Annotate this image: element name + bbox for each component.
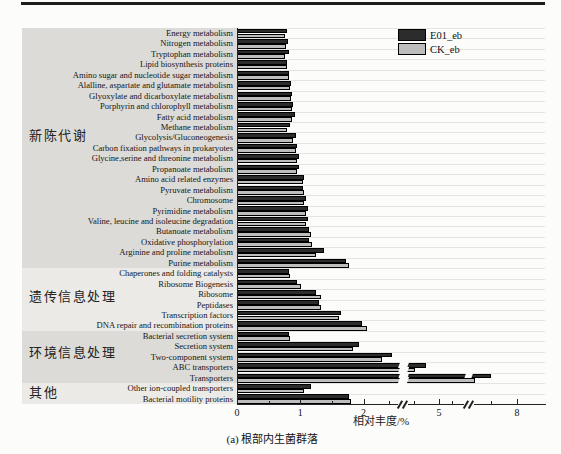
category-label: Amino sugar and nucleotide sugar metabol… xyxy=(22,70,233,80)
x-axis-minor-tick xyxy=(269,401,270,404)
bar-CK_eb xyxy=(237,44,286,49)
bar-CK_eb xyxy=(237,389,304,394)
category-label: Purine metabolism xyxy=(22,258,233,268)
category-label: Bacterial secretion system xyxy=(22,331,233,341)
bar-CK_eb xyxy=(237,117,292,122)
legend-swatch-ck xyxy=(398,43,426,55)
bar-CK_eb xyxy=(237,128,287,133)
category-label: Fatty acid metabolism xyxy=(22,112,233,122)
legend: E01_eb CK_eb xyxy=(398,28,462,56)
bar-CK_eb xyxy=(237,96,291,101)
bar-CK_eb xyxy=(237,65,287,70)
bar-CK_eb xyxy=(237,399,351,404)
legend-label-e01: E01_eb xyxy=(426,30,462,41)
category-label: Lipid biosynthesis proteins xyxy=(22,59,233,69)
x-axis-minor-tick xyxy=(452,401,453,404)
y-axis-line xyxy=(237,28,238,404)
x-axis-major-tick xyxy=(364,399,365,404)
bar-CK_eb xyxy=(237,169,297,174)
category-label: DNA repair and recombination proteins xyxy=(22,320,233,330)
bar-CK_eb xyxy=(237,263,349,268)
category-group-label: 环境信息处理 xyxy=(29,342,116,361)
category-label: Glyoxylate and dicarboxylate metabolism xyxy=(22,91,233,101)
category-label: Valine, leucine and isoleucine degradati… xyxy=(22,216,233,226)
bar-CK_eb xyxy=(237,316,339,321)
x-axis-minor-tick xyxy=(389,401,390,404)
category-label: Tryptophan metabolism xyxy=(22,49,233,59)
category-group-label: 遗传信息处理 xyxy=(29,286,116,305)
bar-CK_eb xyxy=(237,159,297,164)
bar-CK_eb xyxy=(237,180,303,185)
bar-CK_eb xyxy=(237,86,290,91)
bar-CK_eb xyxy=(237,54,285,59)
category-label: Arginine and proline metabolism xyxy=(22,247,233,257)
category-label: Propanoate metabolism xyxy=(22,164,233,174)
category-label: Oxidative phosphorylation xyxy=(22,237,233,247)
bar-CK_eb xyxy=(237,148,296,153)
category-label: Pyruvate metabolism xyxy=(22,185,233,195)
bar-CK_eb xyxy=(237,274,290,279)
x-axis-major-tick xyxy=(300,399,301,404)
legend-item-ck: CK_eb xyxy=(398,42,462,56)
x-axis-title: 相对丰度/% xyxy=(227,412,535,428)
x-axis-line xyxy=(237,404,546,405)
category-label: Alalline, aspartate and glutamate metabo… xyxy=(22,80,233,90)
category-label: Porphyrin and chlorophyll metabolism xyxy=(22,101,233,111)
bar-CK_eb xyxy=(237,378,475,383)
category-label: Pyrimidine metabolism xyxy=(22,206,233,216)
x-axis-major-tick xyxy=(237,399,238,404)
bar-CK_eb xyxy=(237,347,353,352)
legend-swatch-e01 xyxy=(398,29,426,41)
category-label: Butanoate metabolism xyxy=(22,226,233,236)
x-axis-major-tick xyxy=(439,399,440,404)
bar-CK_eb xyxy=(237,368,415,373)
category-label: Chaperones and folding catalysts xyxy=(22,268,233,278)
bar-CK_eb xyxy=(237,242,312,247)
x-axis-minor-tick xyxy=(491,401,492,404)
category-label: Nitrogen metabolism xyxy=(22,38,233,48)
bar-CK_eb xyxy=(237,295,321,300)
bar-CK_eb xyxy=(237,107,292,112)
bar-CK_eb xyxy=(237,305,321,310)
bar-CK_eb xyxy=(237,34,285,39)
legend-item-e01: E01_eb xyxy=(398,28,462,42)
x-axis-minor-tick xyxy=(414,401,415,404)
bar-break-gap xyxy=(398,367,409,374)
bar-CK_eb xyxy=(237,138,293,143)
bar-CK_eb xyxy=(237,211,306,216)
bar-CK_eb xyxy=(237,232,311,237)
category-label: Energy metabolism xyxy=(22,28,233,38)
category-label: Glycine,serine and threonine metabolism xyxy=(22,153,233,163)
bar-CK_eb xyxy=(237,326,367,331)
legend-label-ck: CK_eb xyxy=(426,44,460,55)
category-label: Carbon fixation pathways in prokaryotes xyxy=(22,143,233,153)
bar-CK_eb xyxy=(237,284,301,289)
figure-panel: 01258Energy metabolismNitrogen metabolis… xyxy=(0,0,561,454)
x-axis-major-tick xyxy=(517,399,518,404)
x-axis-minor-tick xyxy=(332,401,333,404)
bar-CK_eb xyxy=(237,357,382,362)
bar-CK_eb xyxy=(237,253,316,258)
bar-CK_eb xyxy=(237,222,306,227)
bar-chart: 01258Energy metabolismNitrogen metabolis… xyxy=(0,0,561,454)
category-group-label: 新陈代谢 xyxy=(29,125,87,144)
bar-CK_eb xyxy=(237,336,290,341)
bar-CK_eb xyxy=(237,201,304,206)
category-label: Transcription factors xyxy=(22,310,233,320)
category-group-label: 其他 xyxy=(29,382,58,401)
bar-CK_eb xyxy=(237,75,289,80)
category-label: Amino acid related enzymes xyxy=(22,174,233,184)
figure-caption: (a) 根部内生菌群落 xyxy=(0,430,545,446)
category-label: ABC transporters xyxy=(22,362,233,372)
category-label: Chromosome xyxy=(22,195,233,205)
bar-CK_eb xyxy=(237,190,304,195)
